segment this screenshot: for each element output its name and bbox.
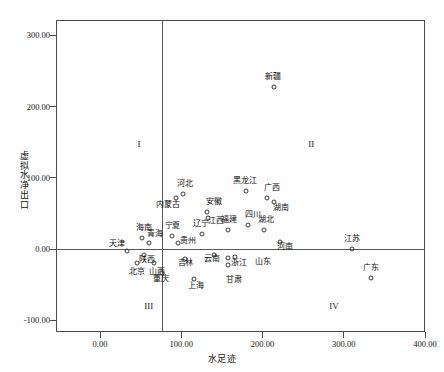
data-point-label: 重庆 [153,275,169,283]
x-axis-tick [100,332,101,338]
data-point-label: 宁夏 [165,222,181,230]
data-point[interactable] [262,227,267,232]
data-point-label: 广东 [363,264,379,272]
data-point[interactable] [264,195,269,200]
y-axis-tick-label: -100.00 [24,316,50,325]
data-point[interactable] [124,249,129,254]
data-point[interactable] [199,232,204,237]
data-point-label: 新疆 [265,73,281,81]
y-axis-title: 虚拟水净出口 [18,152,30,210]
data-point-label: 浙江 [231,259,247,267]
data-point[interactable] [225,262,230,267]
quadrant-label-iii: III [144,301,153,311]
data-point-label: 云南 [204,255,220,263]
data-point[interactable] [349,247,354,252]
data-point-label: 甘肃 [226,276,242,284]
data-point-label: 青海 [147,230,163,238]
scatter-chart: -100.000.00100.00200.00300.000.00100.002… [0,0,444,372]
data-point-label: 内蒙古 [156,201,180,209]
x-axis-tick [425,332,426,338]
data-point[interactable] [226,227,231,232]
data-point[interactable] [271,84,276,89]
data-point[interactable] [140,235,145,240]
data-point-label: 黑龙江 [233,177,257,185]
x-axis-tick-label: 400.00 [413,340,436,349]
data-point-label: 河北 [177,180,193,188]
data-point[interactable] [205,209,210,214]
data-point-label: 辽宁 [193,220,209,228]
data-point[interactable] [151,261,156,266]
x-axis-tick [343,332,344,338]
x-axis-tick-label: 300.00 [332,340,355,349]
y-axis-tick-label: 300.00 [27,31,50,40]
y-axis-tick [50,106,57,107]
data-point[interactable] [134,260,139,265]
data-point[interactable] [368,275,373,280]
data-point[interactable] [180,192,185,197]
data-point[interactable] [146,241,151,246]
reference-line-vertical [162,20,163,332]
data-point-label: 河南 [277,243,293,251]
x-axis-tick [262,332,263,338]
data-point[interactable] [245,223,250,228]
data-point[interactable] [232,254,237,259]
data-point[interactable] [226,255,231,260]
data-point-label: 安徽 [206,198,222,206]
quadrant-label-ii: II [308,139,314,149]
y-axis-tick-label: 0.00 [35,245,50,254]
x-axis-tick-label: 100.00 [170,340,193,349]
data-point-label: 天津 [109,240,125,248]
y-axis-tick-label: 200.00 [27,103,50,112]
data-point-label: 吉林 [178,259,194,267]
data-point[interactable] [244,188,249,193]
data-point-label: 湖南 [273,204,289,212]
y-axis-tick-label: 100.00 [27,174,50,183]
data-point-label: 贵州 [180,237,196,245]
data-point-label: 山东 [255,258,271,266]
data-point-label: 江苏 [344,235,360,243]
data-point[interactable] [169,234,174,239]
data-point-label: 北京 [129,268,145,276]
x-axis-title: 水足迹 [0,352,444,365]
quadrant-label-iv: IV [329,301,339,311]
x-axis-tick-label: 200.00 [251,340,274,349]
quadrant-label-i: I [138,139,141,149]
data-point-label: 湖北 [258,216,274,224]
data-point-label: 上海 [188,282,204,290]
data-point-label: 广西 [264,184,280,192]
reference-line-horizontal [56,249,425,250]
data-point-label: 福建 [221,216,237,224]
y-axis-tick [50,35,57,36]
x-axis-tick [181,332,182,338]
y-axis-tick [50,249,57,250]
y-axis-tick [50,177,57,178]
y-axis-tick [50,320,57,321]
x-axis-tick-label: 0.00 [93,340,108,349]
